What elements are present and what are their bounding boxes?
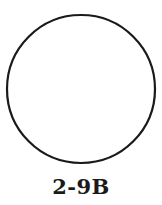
figure-caption: 2-9B — [0, 174, 162, 199]
circle-shape — [7, 15, 155, 163]
